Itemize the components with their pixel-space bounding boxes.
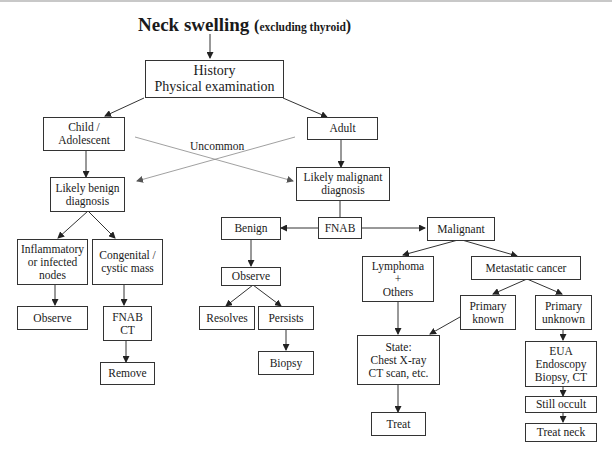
- edge-malignant-lymphoma: [403, 240, 458, 255]
- node-text: Endoscopy: [535, 358, 586, 371]
- node-text: Others: [383, 286, 414, 299]
- node-text: unknown: [542, 313, 585, 326]
- node-text: State:: [385, 341, 411, 354]
- node-text: Observe: [232, 270, 270, 283]
- node-text: Benign: [234, 222, 267, 235]
- node-text: cystic mass: [101, 262, 154, 275]
- node-state: State: Chest X-ray CT scan, etc.: [357, 335, 440, 385]
- edge-history-child: [105, 98, 144, 116]
- node-lymphoma-others: Lymphoma + Others: [362, 256, 434, 302]
- node-text: Adult: [329, 122, 355, 135]
- node-text: +: [395, 273, 402, 286]
- node-text: Lymphoma: [372, 260, 424, 273]
- node-persists: Persists: [258, 306, 314, 330]
- node-biopsy: Biopsy: [258, 351, 314, 375]
- edge-metastatic-known: [493, 279, 527, 294]
- node-treat: Treat: [371, 412, 426, 436]
- node-text: diagnosis: [66, 195, 109, 208]
- node-text: History: [194, 63, 236, 79]
- node-still-occult: Still occult: [525, 396, 597, 413]
- node-likely-malignant: Likely malignant diagnosis: [296, 167, 390, 201]
- node-text: Persists: [268, 312, 303, 325]
- node-remove: Remove: [100, 362, 155, 385]
- node-text: Primary: [469, 300, 506, 313]
- node-text: Adolescent: [58, 134, 110, 147]
- edge-label-uncommon: Uncommon: [190, 140, 244, 152]
- node-text: Resolves: [206, 312, 248, 325]
- node-text: Biopsy: [270, 357, 303, 370]
- node-observe-left: Observe: [17, 306, 88, 330]
- node-eua-endoscopy: EUA Endoscopy Biopsy, CT: [525, 341, 597, 387]
- node-text: Biopsy, CT: [535, 371, 587, 384]
- node-text: CT scan, etc.: [369, 367, 429, 380]
- node-text: Inflammatory: [21, 243, 84, 256]
- node-primary-unknown: Primary unknown: [535, 295, 592, 330]
- node-resolves: Resolves: [199, 306, 255, 330]
- node-metastatic-cancer: Metastatic cancer: [471, 256, 581, 280]
- node-primary-known: Primary known: [460, 295, 516, 330]
- node-fnab: FNAB: [318, 217, 362, 239]
- node-text: Primary: [545, 300, 582, 313]
- node-benign: Benign: [221, 217, 281, 240]
- node-text: nodes: [39, 269, 66, 282]
- node-text: Malignant: [437, 223, 484, 236]
- edge-history-adult: [283, 98, 327, 117]
- node-text: Observe: [33, 312, 71, 325]
- edge-known-state: [430, 317, 460, 334]
- node-text: Physical examination: [154, 79, 274, 95]
- edge-observe-persists: [253, 285, 281, 306]
- node-text: Likely malignant: [304, 171, 383, 184]
- node-text: Remove: [108, 367, 146, 380]
- node-likely-benign: Likely benign diagnosis: [50, 177, 125, 212]
- edges-layer: [0, 0, 612, 453]
- node-text: CT: [120, 324, 135, 337]
- node-text: Likely benign: [55, 182, 119, 195]
- node-text: known: [472, 313, 503, 326]
- node-inflammatory: Inflammatory or infected nodes: [17, 239, 88, 285]
- node-malignant: Malignant: [427, 217, 495, 241]
- node-congenital: Congenital / cystic mass: [92, 239, 163, 285]
- node-text: EUA: [549, 345, 573, 358]
- node-history: History Physical examination: [145, 60, 284, 98]
- node-observe-mid: Observe: [221, 267, 281, 286]
- edge-observe-resolves: [226, 285, 253, 306]
- node-text: Congenital /: [99, 249, 156, 262]
- node-child-adolescent: Child / Adolescent: [43, 117, 125, 151]
- edge-metastatic-unknown: [527, 279, 562, 294]
- node-adult: Adult: [307, 117, 378, 140]
- edge-benign-inflammatory: [58, 211, 88, 238]
- node-text: diagnosis: [321, 184, 364, 197]
- node-text: Treat: [387, 418, 411, 431]
- node-text: FNAB: [112, 311, 143, 324]
- node-text: FNAB: [325, 222, 356, 235]
- node-text: Treat neck: [537, 426, 585, 439]
- node-fnab-ct: FNAB CT: [103, 306, 152, 341]
- node-treat-neck: Treat neck: [525, 423, 597, 442]
- edge-benign-congenital: [88, 211, 115, 238]
- node-text: Metastatic cancer: [486, 262, 567, 275]
- node-text: Still occult: [536, 398, 586, 411]
- edge-malignant-metastatic: [462, 240, 517, 256]
- node-text: or infected: [28, 256, 78, 269]
- node-text: Child /: [68, 121, 100, 134]
- node-text: Chest X-ray: [371, 354, 427, 367]
